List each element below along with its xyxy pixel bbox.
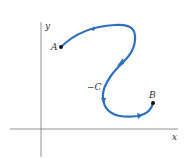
curve-minus-c [61, 25, 153, 117]
point-b-label: B [148, 90, 156, 100]
diagram-canvas: x y A B −C [0, 0, 189, 159]
curve-label: −C [87, 82, 102, 92]
direction-arrow-icon [117, 58, 124, 66]
x-axis-label: x [172, 132, 177, 142]
y-axis-label: y [44, 21, 51, 31]
point-a-dot [59, 45, 63, 49]
point-b-dot [151, 101, 155, 105]
point-a-label: A [50, 42, 58, 52]
